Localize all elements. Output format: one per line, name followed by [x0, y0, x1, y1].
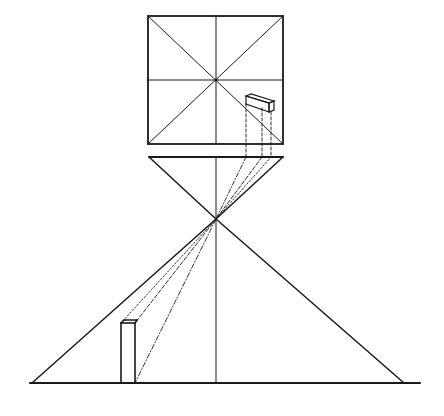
projected-box	[246, 94, 274, 112]
picture-square	[148, 16, 283, 144]
projection-rays	[121, 157, 271, 383]
standing-bar	[121, 320, 137, 383]
perspective-diagram	[0, 0, 444, 416]
lower-cone	[32, 219, 404, 383]
